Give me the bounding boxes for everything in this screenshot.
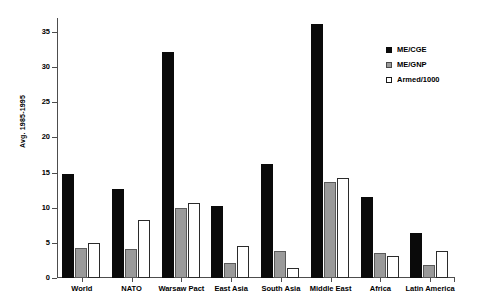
x-tick-mark [132, 278, 133, 282]
bar [138, 220, 150, 278]
y-tick-mark [52, 137, 57, 138]
legend-label: ME/CGE [397, 45, 427, 54]
y-tick-mark [52, 208, 57, 209]
y-tick-label: 5 [26, 239, 50, 247]
legend-swatch-icon [386, 62, 392, 68]
legend-label: Armed/1000 [397, 75, 440, 84]
x-tick-mark [281, 278, 282, 282]
bar [287, 268, 299, 278]
bar-group [260, 18, 310, 278]
bar [62, 174, 74, 278]
x-tick-mark [331, 278, 332, 282]
bar [324, 182, 336, 278]
bar [88, 243, 100, 278]
x-tick-mark [231, 278, 232, 282]
bar [175, 208, 187, 278]
legend-item: ME/GNP [386, 59, 440, 70]
bar-group [61, 18, 111, 278]
bar [162, 52, 174, 278]
y-tick-label: 20 [26, 133, 50, 141]
y-tick-mark [52, 243, 57, 244]
x-tick-mark [454, 278, 455, 282]
legend-label: ME/GNP [397, 60, 427, 69]
y-tick-mark [52, 102, 57, 103]
bar [237, 246, 249, 278]
bar [374, 253, 386, 278]
y-tick-mark [52, 32, 57, 33]
bar [112, 189, 124, 278]
bar-group [210, 18, 260, 278]
bar [224, 263, 236, 278]
bar [423, 265, 435, 278]
bar [261, 164, 273, 278]
bar-group [161, 18, 211, 278]
y-axis-line [57, 18, 58, 278]
bar [188, 203, 200, 278]
y-tick-mark [52, 67, 57, 68]
y-tick-mark [52, 173, 57, 174]
bar [436, 251, 448, 278]
bar-group [310, 18, 360, 278]
y-tick-label: 15 [26, 169, 50, 177]
bar-group [111, 18, 161, 278]
bar [125, 249, 137, 279]
x-tick-mark [82, 278, 83, 282]
bar [75, 248, 87, 278]
legend-item: ME/CGE [386, 44, 440, 55]
y-tick-label: 10 [26, 204, 50, 212]
y-axis-title: Avg. 1985-1995 [19, 74, 26, 170]
bar [337, 178, 349, 278]
legend-item: Armed/1000 [386, 74, 440, 85]
y-tick-label: 30 [26, 63, 50, 71]
bar [311, 24, 323, 278]
x-tick-mark [430, 278, 431, 282]
legend-swatch-icon [386, 47, 392, 53]
bar [274, 251, 286, 278]
bar [387, 256, 399, 278]
y-tick-label: 35 [26, 28, 50, 36]
x-axis-label: Latin America [385, 284, 475, 293]
legend: ME/CGEME/GNPArmed/1000 [386, 44, 440, 89]
x-tick-mark [380, 278, 381, 282]
legend-swatch-icon [386, 77, 392, 83]
bar [361, 197, 373, 278]
y-tick-mark [52, 278, 57, 279]
bar [410, 233, 422, 278]
y-tick-label: 25 [26, 98, 50, 106]
x-tick-mark [181, 278, 182, 282]
y-tick-label: 0 [26, 274, 50, 282]
bar-chart: Avg. 1985-1995 05101520253035 WorldNATOW… [0, 0, 482, 308]
bar [211, 206, 223, 278]
